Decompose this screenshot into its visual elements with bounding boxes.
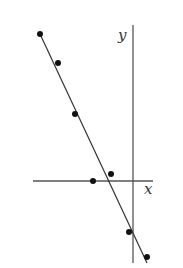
y-axis-label: y [117, 26, 127, 44]
data-point [37, 31, 43, 37]
data-point [108, 171, 114, 177]
scatter-diagram: y x [0, 0, 183, 268]
data-point [126, 229, 132, 235]
x-axis-label: x [144, 180, 153, 198]
data-point [90, 178, 96, 184]
regression-line [40, 34, 147, 263]
data-point [144, 254, 150, 260]
data-point [55, 60, 61, 66]
data-point [72, 111, 78, 117]
